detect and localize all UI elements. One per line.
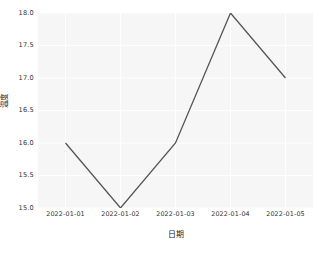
y-axis-tick-label: 18.0: [0, 10, 34, 17]
y-axis-tick-labels: 15.015.516.016.517.017.518.0: [0, 13, 34, 208]
series-polyline: [66, 13, 286, 208]
x-axis-tick-labels: 2022-01-012022-01-022022-01-032022-01-04…: [38, 210, 313, 222]
y-axis-tick-label: 17.0: [0, 75, 34, 82]
y-axis-tick-label: 16.5: [0, 107, 34, 114]
x-axis-tick-label: 2022-01-04: [211, 210, 250, 218]
y-axis-tick-label: 16.0: [0, 140, 34, 147]
x-axis-tick-label: 2022-01-05: [266, 210, 305, 218]
x-axis-tick-label: 2022-01-03: [156, 210, 195, 218]
plot-area: [38, 13, 313, 208]
y-axis-tick-label: 15.5: [0, 172, 34, 179]
x-axis-tick-label: 2022-01-01: [46, 210, 85, 218]
x-axis-label: 日期: [38, 230, 313, 240]
y-axis-tick-label: 15.0: [0, 205, 34, 212]
data-series-line: [38, 13, 313, 208]
line-chart-figure: 温度 15.015.516.016.517.017.518.0 2022-01-…: [0, 0, 328, 254]
x-axis-tick-label: 2022-01-02: [101, 210, 140, 218]
y-axis-tick-label: 17.5: [0, 42, 34, 49]
